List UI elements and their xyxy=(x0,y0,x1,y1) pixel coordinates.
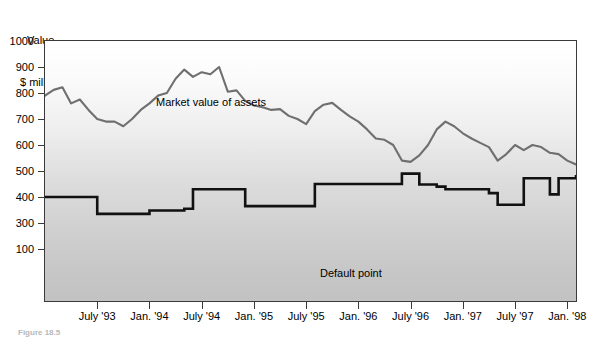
series-line-default-point xyxy=(45,174,576,214)
x-tick-label: July '95 xyxy=(288,310,325,322)
series-line-market-value-of-assets xyxy=(45,67,576,165)
series-label-market-value-of-assets: Market value of assets xyxy=(156,96,266,108)
x-tick-mark xyxy=(567,302,568,309)
plot-area: Market value of assets Default point xyxy=(44,40,577,302)
x-tick-label: July '96 xyxy=(392,310,429,322)
y-tick-label: 500 xyxy=(16,165,34,177)
x-tick-mark xyxy=(202,302,203,309)
y-tick-label: 600 xyxy=(16,139,34,151)
x-tick-label: Jan. '98 xyxy=(548,310,586,322)
y-tick-label: 800 xyxy=(16,87,34,99)
x-tick-label: July '97 xyxy=(497,310,534,322)
x-tick-label: July '94 xyxy=(183,310,220,322)
x-tick-mark xyxy=(149,302,150,309)
x-tick-label: Jan. '95 xyxy=(235,310,273,322)
y-tick-label: 400 xyxy=(16,191,34,203)
y-tick-label: 700 xyxy=(16,113,34,125)
figure-caption: Figure 18.5 xyxy=(18,328,60,337)
y-tick-label: 100 xyxy=(16,243,34,255)
y-tick-label: 1000 xyxy=(10,35,34,47)
series-label-default-point: Default point xyxy=(320,267,382,279)
x-tick-mark xyxy=(97,302,98,309)
x-tick-label: Jan. '94 xyxy=(130,310,168,322)
x-tick-mark xyxy=(254,302,255,309)
x-tick-mark xyxy=(358,302,359,309)
x-tick-mark xyxy=(411,302,412,309)
x-tick-mark xyxy=(306,302,307,309)
x-axis: July '93Jan. '94July '94Jan. '95July '95… xyxy=(0,302,606,339)
y-tick-label: 900 xyxy=(16,61,34,73)
x-tick-mark xyxy=(515,302,516,309)
x-tick-mark xyxy=(463,302,464,309)
x-tick-label: July '93 xyxy=(79,310,116,322)
y-tick-label: 300 xyxy=(16,217,34,229)
x-tick-label: Jan. '96 xyxy=(339,310,377,322)
chart-series-canvas xyxy=(45,41,576,301)
figure-market-value-vs-default-point: Value, $ millions 1000900800700600500400… xyxy=(0,0,606,339)
x-tick-label: Jan. '97 xyxy=(444,310,482,322)
